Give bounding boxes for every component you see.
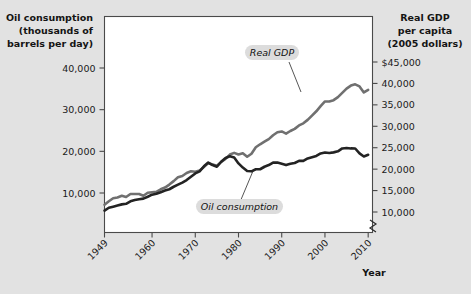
right-tick-label: 40,000 [382, 78, 415, 89]
right-axis-title-line3: (2005 dollars) [387, 38, 462, 49]
right-tick-label: $45,000 [382, 57, 421, 68]
left-axis-title: Oil consumption (thousands of barrels pe… [6, 12, 94, 49]
x-axis-title: Year [361, 267, 386, 278]
left-axis-title-line2: (thousands of [19, 25, 94, 36]
left-tick-label: 20,000 [62, 146, 95, 157]
left-axis-title-line3: barrels per day) [7, 38, 93, 49]
left-tick-label: 40,000 [62, 63, 95, 74]
left-tick-label: 10,000 [62, 188, 95, 199]
right-tick-label: 20,000 [382, 164, 415, 175]
right-tick-label: 35,000 [382, 99, 415, 110]
oil-consumption-real-gdp-chart: Oil consumption (thousands of barrels pe… [0, 0, 471, 294]
right-tick-label: 30,000 [382, 121, 415, 132]
oil-consumption-label-text: Oil consumption [201, 201, 278, 212]
right-tick-label: 25,000 [382, 142, 415, 153]
oil-consumption-label: Oil consumption [196, 199, 283, 214]
left-axis-title-line1: Oil consumption [6, 12, 93, 23]
right-tick-label: 15,000 [382, 185, 415, 196]
left-tick-label: 30,000 [62, 104, 95, 115]
right-axis-title-line2: per capita [398, 25, 452, 36]
real-gdp-label-text: Real GDP [250, 47, 295, 58]
real-gdp-label: Real GDP [245, 45, 299, 60]
right-tick-label: 10,000 [382, 207, 415, 218]
right-axis-title-line1: Real GDP [400, 12, 449, 23]
